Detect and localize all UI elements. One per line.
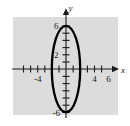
x-tick-label-4: 4 bbox=[92, 74, 97, 84]
x-tick-label-neg4: -4 bbox=[34, 74, 42, 84]
y-tick-label-6: 6 bbox=[54, 21, 59, 31]
figure-container: -4 4 6 6 2 -6 x y bbox=[0, 0, 130, 126]
x-axis-label: x bbox=[120, 65, 125, 75]
coordinate-plane-graph: -4 4 6 6 2 -6 x y bbox=[0, 0, 130, 126]
y-axis-label: y bbox=[68, 3, 73, 13]
y-tick-label-neg6: -6 bbox=[53, 108, 61, 118]
x-tick-label-6: 6 bbox=[106, 74, 111, 84]
y-tick-label-2: 2 bbox=[54, 50, 59, 60]
